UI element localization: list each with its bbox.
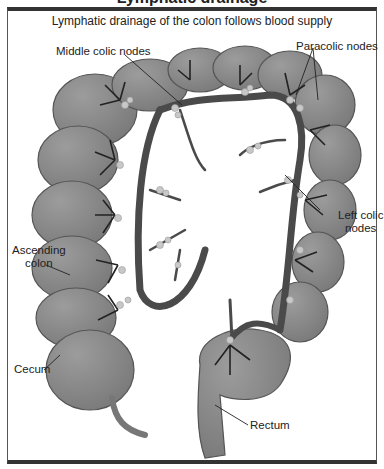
label-ascending-line2: colon — [12, 257, 66, 270]
label-cecum: Cecum — [14, 363, 50, 376]
label-ascending-colon: Ascending colon — [12, 244, 66, 270]
label-left-colic-line1: Left colic — [338, 209, 383, 222]
colon-illustration — [0, 0, 384, 469]
ascending-colon — [32, 74, 137, 410]
label-rectum: Rectum — [250, 419, 290, 432]
label-middle-colic-nodes: Middle colic nodes — [56, 45, 151, 58]
label-ascending-line1: Ascending — [12, 244, 66, 257]
label-left-colic-nodes: Left colic nodes — [338, 209, 383, 235]
appendix — [112, 398, 145, 435]
label-paracolic-nodes: Paracolic nodes — [296, 40, 378, 53]
sigmoid-rectum — [198, 329, 290, 458]
label-left-colic-line2: nodes — [338, 222, 383, 235]
